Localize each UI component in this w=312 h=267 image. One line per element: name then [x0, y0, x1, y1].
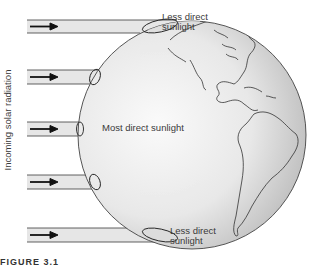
label-top-less-direct: Less direct sunlight	[162, 12, 208, 32]
label-line: sunlight	[162, 22, 208, 32]
label-line: sunlight	[170, 236, 216, 246]
incoming-solar-radiation-label: Incoming solar radiation	[2, 70, 13, 171]
label-most-direct: Most direct sunlight	[102, 123, 184, 133]
label-bottom-less-direct: Less direct sunlight	[170, 226, 216, 246]
figure-caption: FIGURE 3.1	[0, 257, 59, 267]
